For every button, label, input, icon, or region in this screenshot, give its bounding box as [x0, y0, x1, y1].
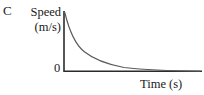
speed-decay-curve [65, 13, 200, 72]
speed-time-figure: C Speed (m/s) 0 Time (s) [0, 0, 204, 95]
plot-area [0, 0, 204, 95]
